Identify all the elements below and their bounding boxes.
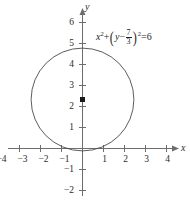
equation-fraction: 73 (126, 29, 132, 47)
coordinate-plane-svg (0, 0, 190, 203)
x-axis-arrow-icon (172, 146, 179, 152)
y-tick-label: −2 (58, 186, 74, 196)
y-tick-label: 5 (62, 39, 74, 49)
x-axis-label: x (181, 143, 185, 153)
x-tick-label: −2 (35, 155, 52, 165)
x-tick-label: 2 (119, 155, 132, 165)
x-tick-label: −3 (14, 155, 31, 165)
y-axis-label: y (85, 2, 89, 12)
equation-plus: + (104, 31, 110, 42)
fraction-denominator: 3 (126, 38, 132, 46)
x-tick-label: 4 (161, 155, 174, 165)
equation-minus: − (119, 31, 125, 42)
y-tick-label: 4 (62, 60, 74, 70)
equation-rhs: 6 (147, 31, 152, 42)
x-tick-label: 3 (140, 155, 153, 165)
x-tick-label: 1 (98, 155, 111, 165)
x-tick-label: −4 (0, 155, 10, 165)
center-point-marker (80, 97, 85, 102)
y-tick-label: −1 (58, 165, 74, 175)
y-tick-label: 1 (62, 123, 74, 133)
y-tick-label: 2 (62, 102, 74, 112)
circle-graph-figure: −4 −3 −2 −1 1 2 3 4 6 5 4 3 2 1 −1 −2 x … (0, 0, 190, 203)
equation-annotation: x2+(y−73)2=6 (96, 29, 152, 47)
y-tick-label: 3 (62, 81, 74, 91)
y-tick-label: 6 (62, 18, 74, 28)
